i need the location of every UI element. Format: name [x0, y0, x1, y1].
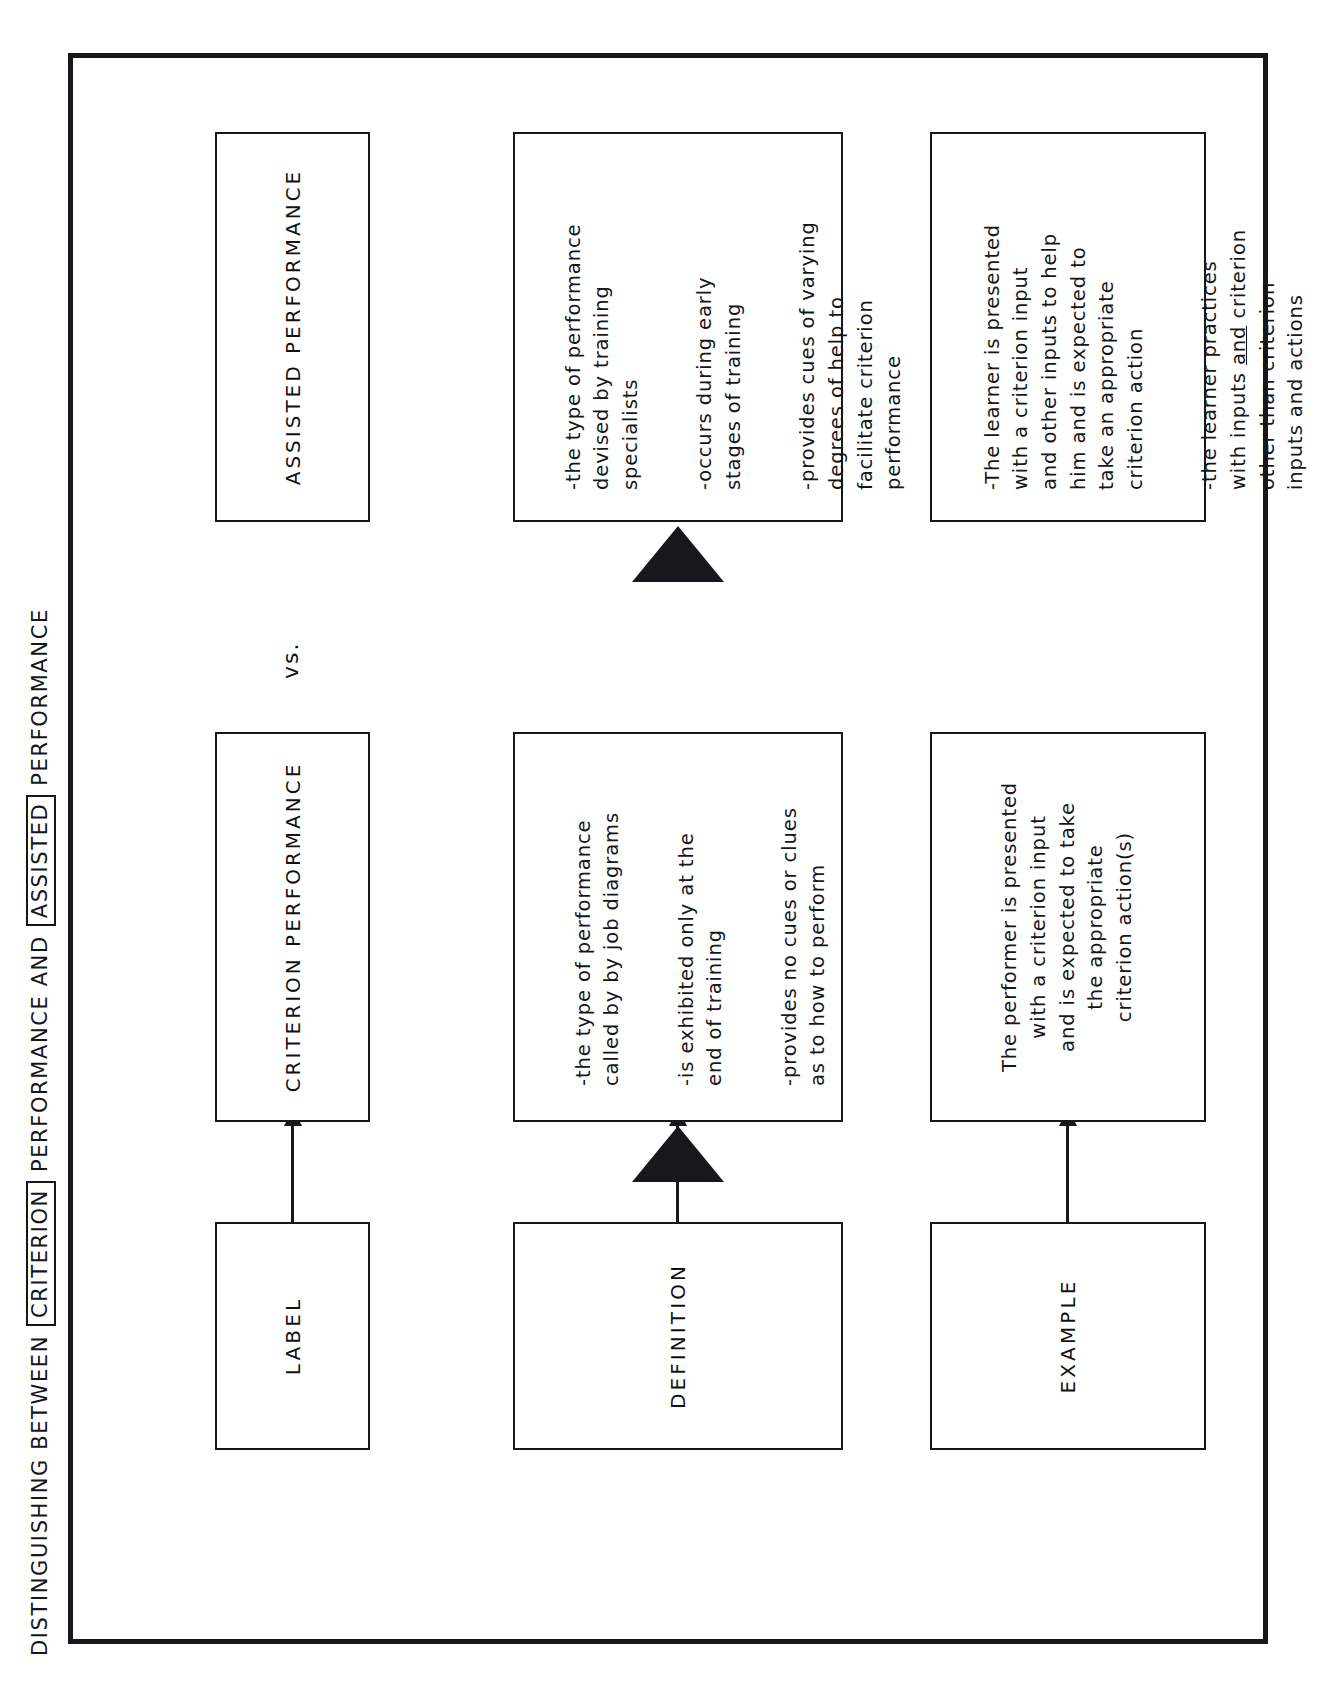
assisted-definition-bullet-2: -occurs during early stages of training: [691, 146, 748, 490]
criterion-header-box: CRITERION PERFORMANCE: [215, 732, 370, 1122]
page-title: DISTINGUISHING BETWEEN CRITERION PERFORM…: [26, 608, 56, 1656]
row-label-example: EXAMPLE: [1056, 1279, 1080, 1394]
page-title-boxed-assisted: ASSISTED: [26, 795, 56, 927]
assisted-example-bullet-2: -the learner practices with inputs and c…: [1196, 146, 1311, 490]
label-connector-line: [291, 1124, 294, 1222]
versus-label: vs.: [278, 642, 303, 679]
row-label-definition: DEFINITION: [666, 1263, 690, 1409]
row-label-box-definition: DEFINITION: [513, 1222, 843, 1450]
assisted-header-box: ASSISTED PERFORMANCE: [215, 132, 370, 522]
assisted-example-box: -The learner is presented with a criteri…: [930, 132, 1206, 522]
criterion-definition-content: -the type of performance called by by jo…: [541, 750, 862, 1086]
page-title-boxed-criterion: CRITERION: [26, 1181, 56, 1326]
criterion-example-content: The performer is presented with a criter…: [996, 734, 1139, 1120]
assisted-example-content: -The learner is presented with a criteri…: [950, 146, 1340, 490]
example-connector-line: [1066, 1124, 1069, 1222]
page-title-prefix: DISTINGUISHING BETWEEN: [30, 1335, 52, 1656]
assisted-definition-box: -the type of performance devised by trai…: [513, 132, 843, 522]
row-label-box-label: LABEL: [215, 1222, 370, 1450]
assisted-header-label: ASSISTED PERFORMANCE: [281, 169, 305, 486]
criterion-header-label: CRITERION PERFORMANCE: [281, 762, 305, 1093]
assisted-definition-bullet-1: -the type of performance devised by trai…: [560, 146, 646, 490]
scanned-page: DISTINGUISHING BETWEEN CRITERION PERFORM…: [0, 0, 1342, 1700]
criterion-definition-bullet-1: -the type of performance called by by jo…: [570, 750, 627, 1086]
row-label-box-example: EXAMPLE: [930, 1222, 1206, 1450]
assisted-example-bullet-1: -The learner is presented with a criteri…: [979, 146, 1151, 490]
row-label-label: LABEL: [281, 1297, 305, 1375]
assisted-definition-content: -the type of performance devised by trai…: [531, 146, 938, 490]
criterion-definition-box: -the type of performance called by by jo…: [513, 732, 843, 1122]
criterion-definition-marker-icon: [632, 1126, 724, 1182]
criterion-example-box: The performer is presented with a criter…: [930, 732, 1206, 1122]
diagram-stage: DISTINGUISHING BETWEEN CRITERION PERFORM…: [0, 0, 1342, 1700]
assisted-definition-bullet-3: -provides cues of varying degrees of hel…: [794, 146, 909, 490]
assisted-example-bullet-2-emphasis: and: [1227, 326, 1250, 365]
page-title-middle: PERFORMANCE AND: [30, 935, 52, 1172]
assisted-definition-marker-icon: [632, 526, 724, 582]
criterion-definition-bullet-3: -provides no cues or clues as to how to …: [776, 750, 833, 1086]
page-title-suffix: PERFORMANCE: [30, 608, 52, 785]
criterion-definition-bullet-2: -is exhibited only at the end of trainin…: [673, 750, 730, 1086]
